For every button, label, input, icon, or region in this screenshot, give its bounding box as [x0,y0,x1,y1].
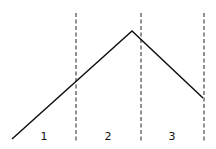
region-label-3: 3 [169,130,176,143]
curve [12,31,203,139]
region-diagram: 1 2 3 [0,0,216,149]
region-label-1: 1 [41,130,48,143]
region-label-2: 2 [105,130,112,143]
